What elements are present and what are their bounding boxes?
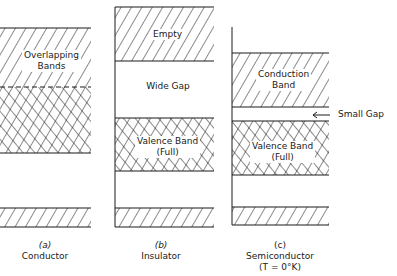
- empty-band-label: Empty: [151, 29, 184, 40]
- overlapping-bands-label: Overlapping Bands: [22, 50, 81, 72]
- caption-semiconductor: (c) Semiconductor (T = 0°K): [245, 240, 315, 273]
- panel-semiconductor: [232, 27, 330, 225]
- conduction-band-label: Conduction Band: [256, 69, 311, 91]
- conductor-inner-band: [0, 208, 91, 227]
- left-arrow-icon: [313, 112, 330, 118]
- caption-conductor: (a) Conductor: [20, 240, 70, 262]
- panel-insulator: [115, 7, 214, 227]
- caption-insulator: (b) Insulator: [136, 240, 186, 262]
- semi-inner-band: [232, 207, 329, 225]
- insulator-inner-band: [115, 208, 214, 227]
- insulator-valence-label: Valence Band (Full): [135, 136, 200, 158]
- semi-valence-label: Valence Band (Full): [250, 141, 315, 163]
- small-gap-label: Small Gap: [338, 109, 384, 120]
- wide-gap-label: Wide Gap: [135, 81, 201, 92]
- overlapping-band-crosshatch: [0, 87, 91, 153]
